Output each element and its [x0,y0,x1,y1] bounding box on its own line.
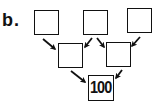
arrow-top2-to-mid2 [97,38,104,47]
arrow-top1-to-mid1 [43,39,55,49]
arrow-top2-to-mid1 [85,38,92,47]
arrow-top3-to-mid2 [132,37,140,46]
arrow-mid1-to-bottom [71,71,85,82]
arrow-mid2-to-bottom [116,70,122,78]
arrows-layer [0,0,163,106]
